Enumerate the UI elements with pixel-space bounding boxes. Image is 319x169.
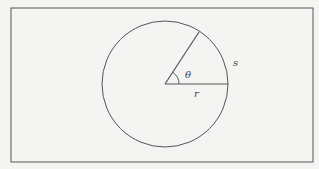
theta-label: θ — [185, 70, 191, 80]
radius-label: r — [194, 89, 199, 99]
diagram-svg — [0, 0, 319, 169]
arc-length-label: s — [233, 58, 238, 68]
angle-arc-marker — [173, 72, 179, 84]
diagram-frame — [11, 8, 313, 162]
diagram-canvas: θ s r — [0, 0, 319, 169]
radius-line-angled — [165, 32, 199, 84]
